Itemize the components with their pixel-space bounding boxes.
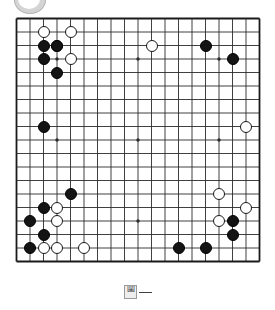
white-stone[interactable]: [51, 202, 63, 214]
white-stone[interactable]: [146, 40, 158, 52]
black-stone[interactable]: [227, 53, 239, 65]
footer-rule-divider: [139, 292, 152, 293]
white-stone[interactable]: [51, 215, 63, 227]
go-board-lines: [15, 17, 261, 263]
white-stone[interactable]: [65, 26, 77, 38]
black-stone[interactable]: [227, 215, 239, 227]
go-board[interactable]: [15, 17, 261, 263]
white-stone[interactable]: [51, 242, 63, 254]
black-stone[interactable]: [38, 40, 50, 52]
white-stone[interactable]: [78, 242, 90, 254]
black-stone[interactable]: [65, 188, 77, 200]
white-stone[interactable]: [240, 121, 252, 133]
top-chrome-bar: [0, 0, 275, 16]
black-stone[interactable]: [51, 67, 63, 79]
black-stone[interactable]: [38, 121, 50, 133]
white-stone[interactable]: [38, 26, 50, 38]
white-stone[interactable]: [65, 53, 77, 65]
white-stone[interactable]: [213, 188, 225, 200]
black-stone[interactable]: [200, 40, 212, 52]
black-stone[interactable]: [200, 242, 212, 254]
white-stone[interactable]: [213, 215, 225, 227]
black-stone[interactable]: [38, 229, 50, 241]
black-stone[interactable]: [38, 53, 50, 65]
black-stone[interactable]: [38, 202, 50, 214]
black-stone[interactable]: [51, 40, 63, 52]
footer-glyph-icon: 圍: [124, 285, 137, 299]
white-stone[interactable]: [38, 242, 50, 254]
white-stone[interactable]: [240, 202, 252, 214]
black-stone[interactable]: [24, 242, 36, 254]
go-board-grid[interactable]: [15, 17, 261, 263]
footer-mark: 圍: [0, 282, 275, 302]
black-stone[interactable]: [173, 242, 185, 254]
black-stone[interactable]: [227, 229, 239, 241]
black-stone[interactable]: [24, 215, 36, 227]
